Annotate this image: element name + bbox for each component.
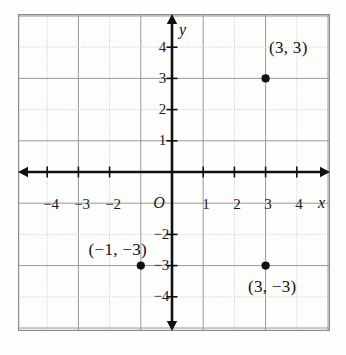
- x-tick-label: 3: [264, 197, 271, 212]
- y-tick-label: 3: [159, 71, 166, 86]
- y-tick-label: 4: [159, 40, 166, 55]
- y-tick-label: −4: [153, 289, 169, 304]
- x-tick-label: −3: [74, 197, 90, 212]
- x-tick-label: 4: [295, 197, 302, 212]
- plot-area: −4 −3 −2 1 2 3 4 4 3 2 1 −2 −3 −4 O x y …: [18, 14, 330, 331]
- point-label: (3, −3): [248, 278, 297, 295]
- x-tick-label: 2: [233, 197, 240, 212]
- y-tick-label: −2: [153, 227, 169, 242]
- y-tick-label: 1: [159, 133, 166, 148]
- y-tick-label: −3: [153, 258, 169, 273]
- point-label: (−1, −3): [89, 241, 147, 258]
- x-tick-label: −4: [43, 197, 59, 212]
- coordinate-plane-figure: −4 −3 −2 1 2 3 4 4 3 2 1 −2 −3 −4 O x y …: [0, 0, 346, 355]
- y-axis-label: y: [179, 22, 186, 38]
- x-tick-label: 1: [202, 197, 209, 212]
- x-tick-label: −2: [105, 197, 121, 212]
- point-label: (3, 3): [269, 39, 308, 56]
- y-tick-label: 2: [159, 102, 166, 117]
- x-axis-label: x: [318, 195, 325, 211]
- origin-label: O: [153, 195, 165, 211]
